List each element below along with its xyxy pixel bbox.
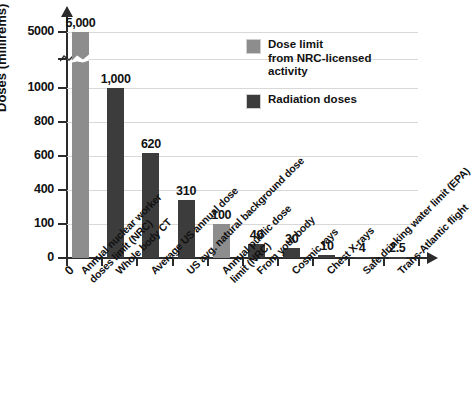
bar xyxy=(283,248,300,258)
bar xyxy=(389,257,406,259)
bar xyxy=(354,257,371,259)
x-axis-tick xyxy=(101,259,103,266)
x-axis-arrow-icon xyxy=(427,252,438,264)
bar xyxy=(107,88,124,258)
x-axis-tick xyxy=(66,259,68,266)
x-axis-tick xyxy=(277,259,279,266)
bar xyxy=(318,255,335,258)
x-axis-tick xyxy=(312,259,314,266)
legend-swatch-icon xyxy=(246,94,261,109)
y-axis-tick-label: 400 xyxy=(0,182,54,196)
legend-label-line: Dose limit xyxy=(268,38,372,52)
legend-label: Dose limitfrom NRC-licensedactivity xyxy=(268,38,372,79)
bar-value-label: 10 xyxy=(307,239,346,253)
y-axis-tick-label: 1000 xyxy=(0,80,54,94)
bar-value-label: 100 xyxy=(202,208,241,222)
y-axis-tick-label: 800 xyxy=(0,114,54,128)
y-axis-tick-label: 5000 xyxy=(0,24,54,38)
bar-value-label: 620 xyxy=(131,137,170,151)
y-axis-tick-label: 0 xyxy=(0,250,54,264)
x-axis-tick xyxy=(242,259,244,266)
x-axis-origin-label: 0 xyxy=(62,263,77,278)
legend-item[interactable]: Radiation doses xyxy=(246,93,446,109)
legend-swatch-icon xyxy=(246,39,261,54)
bar xyxy=(213,224,230,258)
legend-label-line: activity xyxy=(268,65,372,79)
bar-value-label: 4 xyxy=(343,241,382,255)
legend-label: Radiation doses xyxy=(268,93,357,107)
x-axis-tick xyxy=(136,259,138,266)
x-axis-tick xyxy=(172,259,174,266)
bar xyxy=(72,32,89,258)
bar-value-label: 30 xyxy=(272,232,311,246)
legend-label-line: Radiation doses xyxy=(268,93,357,107)
bar xyxy=(142,153,159,258)
x-axis-tick xyxy=(383,259,385,266)
legend-item[interactable]: Dose limitfrom NRC-licensedactivity xyxy=(246,38,446,79)
x-axis-tick xyxy=(418,259,420,266)
bar-value-label: 40 xyxy=(237,228,276,242)
legend-label-line: from NRC-licensed xyxy=(268,52,372,66)
x-axis-tick xyxy=(348,259,350,266)
bar-value-label: 1,000 xyxy=(96,72,135,86)
bar xyxy=(248,244,265,258)
x-axis-tick xyxy=(207,259,209,266)
y-axis-tick-label: 100 xyxy=(0,216,54,230)
bar-break-icon xyxy=(72,52,89,63)
legend: Dose limitfrom NRC-licensedactivityRadia… xyxy=(246,38,446,123)
y-axis-tick-label: 600 xyxy=(0,148,54,162)
y-axis-title: Doses (millirems) xyxy=(0,0,9,112)
bar-value-label: 2.5 xyxy=(378,241,417,255)
bar-value-label: 5,000 xyxy=(61,16,100,30)
bar-value-label: 310 xyxy=(167,184,206,198)
bar xyxy=(178,200,195,258)
